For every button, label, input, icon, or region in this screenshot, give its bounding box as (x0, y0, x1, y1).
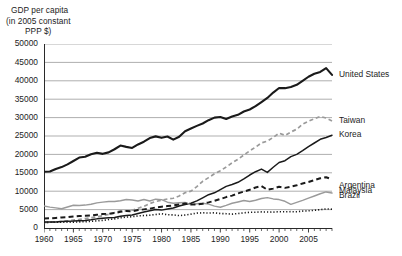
axis-title-line-3: PPP $) (25, 26, 51, 37)
y-tick-label-0: 0 (0, 222, 38, 232)
y-tick-label-30000: 30000 (0, 112, 38, 122)
series-line-argentina (44, 192, 332, 209)
series-label-korea: Korea (339, 129, 361, 139)
series-label-brazil: Brazil (339, 190, 360, 200)
chart-canvas (44, 44, 336, 236)
series-label-united-states: United States (339, 69, 389, 79)
y-tick-label-45000: 45000 (0, 57, 38, 67)
series-line-taiwan (44, 117, 332, 223)
series-line-malaysia (44, 177, 332, 218)
series-line-united-states (44, 68, 332, 172)
axis-title-line-1: GDP per capita (11, 5, 68, 16)
y-tick-label-50000: 50000 (0, 38, 38, 48)
axis-title-line-2: (in 2005 constant (6, 16, 71, 27)
y-tick-label-15000: 15000 (0, 167, 38, 177)
y-tick-label-5000: 5000 (0, 204, 38, 214)
y-tick-label-25000: 25000 (0, 130, 38, 140)
y-tick-label-35000: 35000 (0, 94, 38, 104)
plot-area (44, 44, 332, 228)
chart-figure: GDP per capita (in 2005 constant PPP $) … (0, 0, 402, 256)
series-line-korea (44, 135, 332, 222)
y-tick-label-40000: 40000 (0, 75, 38, 85)
x-tick-label-2005: 2005 (291, 234, 325, 244)
y-tick-label-20000: 20000 (0, 149, 38, 159)
series-label-taiwan: Taiwan (339, 115, 365, 125)
y-tick-label-10000: 10000 (0, 186, 38, 196)
